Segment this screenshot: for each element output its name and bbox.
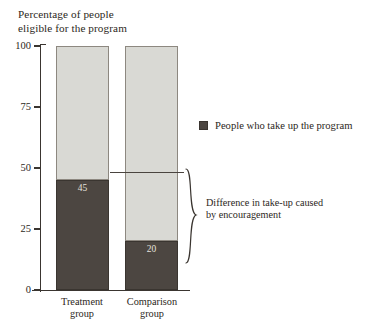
y-axis-tick — [34, 228, 40, 229]
y-axis-tick-label-text: 100 — [1, 41, 31, 52]
y-axis-tick-label-text: 75 — [1, 102, 31, 113]
bar-segment-remainder — [125, 46, 178, 241]
takeup-level-connector — [110, 172, 184, 173]
bar-value-label: 20 — [125, 244, 178, 254]
x-label-line-1: Treatment — [48, 296, 116, 308]
curly-brace-icon — [184, 168, 204, 264]
y-axis-top-cap — [40, 44, 46, 45]
annotation-line-1: Difference in take-up caused — [206, 197, 356, 209]
bar-segment-takeup — [56, 180, 109, 290]
y-axis-tick — [34, 106, 40, 107]
x-axis-label-treatment: Treatment group — [48, 296, 116, 321]
y-axis-tick — [34, 289, 40, 290]
chart-title-line-1: Percentage of people — [18, 8, 198, 22]
x-axis-label-comparison: Comparison group — [117, 296, 187, 321]
y-axis-tick — [34, 167, 40, 168]
chart-legend: People who take up the program — [199, 120, 352, 131]
chart-title-line-2: eligible for the program — [18, 22, 198, 36]
bar-segment-remainder — [56, 46, 109, 180]
y-axis-line — [40, 44, 41, 292]
legend-swatch-icon — [199, 121, 208, 130]
annotation-line-2: by encouragement — [206, 209, 356, 221]
y-axis-tick — [34, 45, 40, 46]
x-label-line-2: group — [48, 308, 116, 320]
y-axis-tick-label-text: 0 — [1, 285, 31, 296]
legend-label: People who take up the program — [215, 120, 352, 131]
bar-value-label: 45 — [56, 183, 109, 193]
chart-container: Percentage of people eligible for the pr… — [0, 0, 369, 334]
y-axis-tick-label-text: 25 — [1, 224, 31, 235]
x-label-line-1: Comparison — [117, 296, 187, 308]
x-label-line-2: group — [117, 308, 187, 320]
y-axis-tick-label-text: 50 — [1, 163, 31, 174]
chart-title: Percentage of people eligible for the pr… — [18, 8, 198, 35]
x-axis-baseline — [32, 290, 190, 291]
difference-annotation: Difference in take-up caused by encourag… — [206, 197, 356, 222]
